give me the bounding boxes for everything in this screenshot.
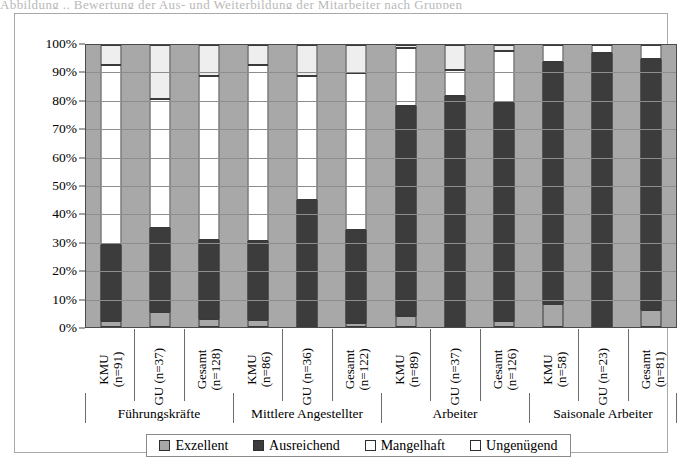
x-axis-tick-label: Gesamt(n=81) [639, 330, 666, 410]
bar-segment-ungenügend[interactable] [395, 45, 416, 48]
y-axis-tick-label: 20% [52, 263, 77, 279]
chart-page: Abbildung .. Bewertung der Aus- und Weit… [0, 0, 682, 461]
x-axis-tick-divider [578, 329, 579, 401]
x-axis-group-divider [381, 393, 382, 423]
chart-legend: ExzellentAusreichendMangelhaftUngenügend [146, 434, 571, 457]
bar-segment-mangelhaft[interactable] [149, 99, 170, 229]
bar-segment-mangelhaft[interactable] [100, 65, 121, 245]
bar-segment-mangelhaft[interactable] [346, 73, 367, 230]
bar-segment-exzellent[interactable] [198, 319, 219, 327]
bar-segment-ausreichend[interactable] [395, 106, 416, 316]
bar-segment-exzellent[interactable] [395, 316, 416, 327]
x-axis-group-label-slot: Mittlere Angestellter [233, 401, 381, 427]
bar-segment-ausreichend[interactable] [198, 240, 219, 319]
y-axis: 0%10%20%30%40%50%60%70%80%90%100% [15, 44, 85, 328]
bar-segment-exzellent[interactable] [248, 320, 269, 327]
legend-label: Mangelhaft [381, 438, 446, 454]
bar-segment-exzellent[interactable] [543, 304, 564, 327]
gridline [86, 214, 676, 215]
y-axis-tick-label: 80% [52, 93, 77, 109]
legend-item[interactable]: Mangelhaft [365, 438, 446, 454]
y-axis-tick-label: 30% [52, 235, 77, 251]
bar-segment-ausreichend[interactable] [248, 241, 269, 320]
x-axis-tick-label-line1: Gesamt [639, 330, 653, 410]
x-axis-label-slot: Gesamt(n=128) [184, 329, 233, 407]
bar-segment-mangelhaft[interactable] [641, 45, 662, 59]
legend-label: Ungenügend [486, 438, 558, 454]
bar-segment-ungenügend[interactable] [248, 45, 269, 65]
x-axis-tick-divider [332, 329, 333, 401]
bar-segment-exzellent[interactable] [100, 321, 121, 327]
bar-segment-ungenügend[interactable] [198, 45, 219, 76]
x-axis-tick-label-line2: (n=81) [652, 330, 666, 410]
x-axis-tick-label: Gesamt(n=128) [195, 330, 222, 410]
bar-segment-ausreichend[interactable] [444, 96, 465, 327]
x-axis-tick-label-line1: Gesamt [343, 330, 357, 410]
x-axis-tick-label: KMU(n=89) [392, 330, 419, 410]
x-axis-tick-divider [430, 329, 431, 401]
bar-segment-exzellent[interactable] [149, 312, 170, 328]
y-axis-tick-label: 60% [52, 150, 77, 166]
bar-segment-ungenügend[interactable] [493, 45, 514, 51]
x-axis-tick-label: KMU(n=58) [540, 330, 567, 410]
bar-segment-ungenügend[interactable] [444, 45, 465, 70]
x-axis-label-slot: Gesamt(n=126) [480, 329, 529, 407]
x-axis-group-labels: FührungskräfteMittlere AngestellterArbei… [85, 401, 677, 427]
x-axis-tick-label-line2: (n=122) [356, 330, 370, 410]
x-axis-group-label: Mittlere Angestellter [251, 406, 363, 422]
chart-frame: 0%10%20%30%40%50%60%70%80%90%100% KMU(n=… [14, 13, 668, 453]
legend-swatch-icon [470, 440, 481, 451]
bar-segment-ausreichend[interactable] [641, 59, 662, 310]
bar-segment-ausreichend[interactable] [543, 62, 564, 305]
gridline [86, 243, 676, 244]
x-axis-tick-label-line1: Gesamt [491, 330, 505, 410]
bar-segment-ungenügend[interactable] [297, 45, 318, 76]
gridline [86, 271, 676, 272]
y-axis-tick-label: 70% [52, 121, 77, 137]
y-axis-tick-label: 40% [52, 206, 77, 222]
bar-segment-mangelhaft[interactable] [493, 51, 514, 103]
bar-segment-exzellent[interactable] [641, 310, 662, 327]
bar-segment-ausreichend[interactable] [100, 245, 121, 321]
x-axis-tick-label: Gesamt(n=126) [491, 330, 518, 410]
gridline [86, 158, 676, 159]
x-axis-label-slot: GU (n=37) [134, 329, 183, 407]
legend-item[interactable]: Exzellent [159, 438, 228, 454]
y-axis-tick-label: 10% [52, 292, 77, 308]
x-axis-label-slot: KMU(n=89) [381, 329, 430, 407]
x-axis-tick-divider [480, 329, 481, 401]
bar-segment-mangelhaft[interactable] [543, 45, 564, 62]
y-axis-tick-label: 100% [46, 36, 78, 52]
bar-segment-mangelhaft[interactable] [395, 48, 416, 106]
bar-segment-ausreichend[interactable] [493, 103, 514, 322]
x-axis-tick-label-line1: KMU [540, 330, 554, 410]
x-axis-tick-label-line1: KMU [392, 330, 406, 410]
x-axis-tick-label-line1: KMU [244, 330, 258, 410]
bar-segment-mangelhaft[interactable] [592, 45, 613, 53]
bar-segment-ungenügend[interactable] [100, 45, 121, 65]
x-axis-label-slot: Gesamt(n=81) [628, 329, 677, 407]
x-axis-tick-label-line2: (n=89) [406, 330, 420, 410]
x-axis-group-divider [529, 393, 530, 423]
x-axis-group-label: Arbeiter [433, 406, 478, 422]
bar-segment-mangelhaft[interactable] [444, 70, 465, 95]
bar-segment-ungenügend[interactable] [346, 45, 367, 73]
gridline [86, 186, 676, 187]
bar-segment-mangelhaft[interactable] [297, 76, 318, 200]
legend-item[interactable]: Ungenügend [470, 438, 558, 454]
x-axis-group-divider-left [85, 393, 86, 423]
x-axis-group-divider [233, 393, 234, 423]
x-axis-group-divider-right [676, 393, 677, 423]
gridline [86, 101, 676, 102]
x-axis-label-slot: Gesamt(n=122) [332, 329, 381, 407]
x-axis-tick-label-line2: (n=128) [208, 330, 222, 410]
bar-segment-ausreichend[interactable] [297, 200, 318, 327]
bar-segment-ausreichend[interactable] [592, 53, 613, 327]
legend-label: Ausreichend [269, 438, 340, 454]
x-axis-tick-divider [282, 329, 283, 401]
plot-area [85, 44, 677, 328]
bar-segment-exzellent[interactable] [346, 323, 367, 327]
x-axis-label-slot: KMU(n=86) [233, 329, 282, 407]
bar-segment-exzellent[interactable] [493, 321, 514, 327]
legend-item[interactable]: Ausreichend [253, 438, 340, 454]
